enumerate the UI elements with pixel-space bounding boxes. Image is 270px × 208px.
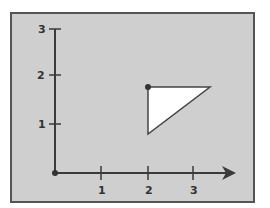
y-label-1: 1 xyxy=(38,118,46,131)
y-label-3: 3 xyxy=(38,23,46,36)
triangle-shape xyxy=(148,87,210,134)
x-label-2: 2 xyxy=(145,184,153,197)
coordinate-plane: 3 2 1 1 2 3 xyxy=(0,0,270,208)
x-label-3: 3 xyxy=(190,184,198,197)
x-label-1: 1 xyxy=(98,184,106,197)
triangle-vertex-dot xyxy=(145,84,151,90)
y-label-2: 2 xyxy=(37,69,45,82)
origin-dot xyxy=(52,170,58,176)
